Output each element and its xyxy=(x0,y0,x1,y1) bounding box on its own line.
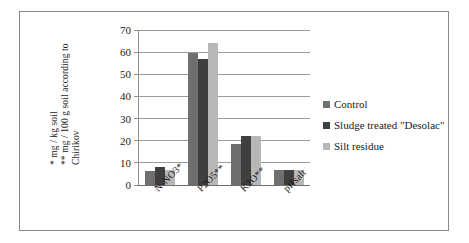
y-axis-label-line-3: Chirikov xyxy=(71,130,82,165)
legend-swatch-icon xyxy=(323,122,330,129)
y-tick-mark xyxy=(134,140,138,141)
y-axis-label-line-1: * mg / kg soil xyxy=(49,111,60,165)
plot-area: 010203040506070 xyxy=(138,30,310,185)
legend-label: Control xyxy=(334,98,368,110)
y-axis-label: * mg / kg soil ** mg / 100 g soil accord… xyxy=(35,15,95,165)
x-axis-labels: N-NO3*P2O5**K2O**pHsalt xyxy=(138,186,310,234)
y-tick-label: 70 xyxy=(120,25,131,36)
y-tick-label: 0 xyxy=(126,180,132,191)
legend-swatch-icon xyxy=(323,143,330,150)
plot-inner: 010203040506070 xyxy=(138,30,310,185)
bar[interactable] xyxy=(274,170,284,185)
legend-item[interactable]: Sludge treated "Desolac" xyxy=(323,119,463,131)
legend-item[interactable]: Silt residue xyxy=(323,140,463,152)
bars-layer xyxy=(139,30,310,185)
legend: ControlSludge treated "Desolac"Silt resi… xyxy=(323,98,463,161)
y-tick-label: 30 xyxy=(120,113,131,124)
y-tick-label: 20 xyxy=(120,135,131,146)
y-tick-label: 40 xyxy=(120,91,131,102)
y-axis-label-line-2: ** mg / 100 g soil according to xyxy=(60,43,71,165)
bar-group xyxy=(225,30,268,185)
y-tick-label: 10 xyxy=(120,157,131,168)
y-tick-label: 60 xyxy=(120,47,131,58)
y-tick-mark xyxy=(134,96,138,97)
y-tick-mark xyxy=(134,74,138,75)
legend-item[interactable]: Control xyxy=(323,98,463,110)
legend-label: Sludge treated "Desolac" xyxy=(334,119,444,131)
bar[interactable] xyxy=(231,144,241,185)
y-tick-mark xyxy=(134,52,138,53)
bar[interactable] xyxy=(198,59,208,185)
y-tick-mark xyxy=(134,162,138,163)
legend-swatch-icon xyxy=(323,101,330,108)
bar-group xyxy=(267,30,310,185)
y-tick-mark xyxy=(134,30,138,31)
y-tick-mark xyxy=(134,118,138,119)
legend-label: Silt residue xyxy=(334,140,384,152)
bar[interactable] xyxy=(188,53,198,185)
y-tick-label: 50 xyxy=(120,69,131,80)
chart-frame: * mg / kg soil ** mg / 100 g soil accord… xyxy=(19,11,449,231)
